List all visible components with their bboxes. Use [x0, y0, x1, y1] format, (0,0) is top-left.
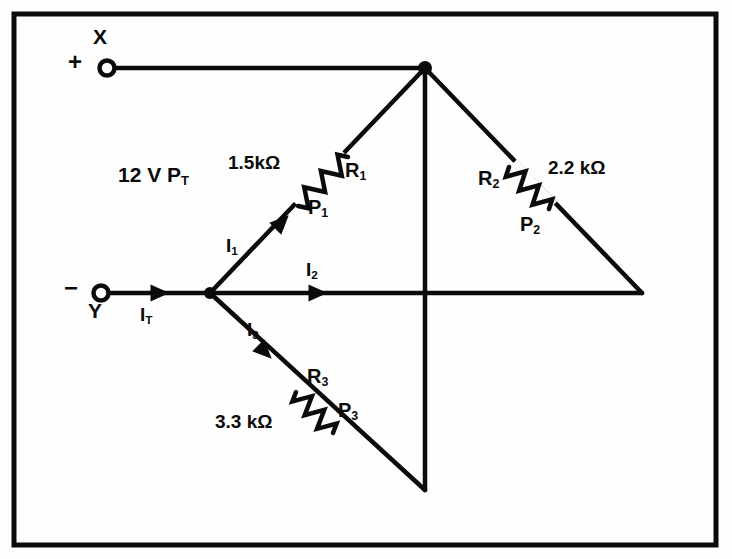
resistor-r2-reference-text: R — [478, 167, 492, 189]
circuit-diagram-figure: + X − Y 12 V PT IT 1.5kΩ R1 P1 I1 I2 R2 … — [0, 0, 732, 559]
current-i1-label: I1 — [226, 236, 238, 255]
terminal-x-label: X — [93, 26, 107, 47]
current-arrow-branch-2-head — [309, 285, 328, 302]
power-p1-reference-subscript: 1 — [321, 206, 328, 220]
current-i2-label: I2 — [306, 260, 318, 279]
current-total-label: IT — [140, 305, 152, 324]
power-p1-reference: P1 — [308, 197, 328, 217]
wire-branch3 — [210, 293, 425, 490]
terminal-y-polarity: − — [64, 276, 78, 300]
current-i3-label: I3 — [247, 320, 259, 339]
resistor-r3-value: 3.3 kΩ — [215, 412, 273, 431]
current-arrow-branch-1 — [269, 209, 294, 234]
junction-top-junction — [418, 61, 432, 75]
power-p2-reference-text: P — [520, 213, 533, 235]
resistor-r3-reference: R3 — [307, 366, 328, 386]
resistor-r1-reference-subscript: 1 — [359, 169, 366, 183]
resistor-r2-reference: R2 — [478, 168, 499, 188]
current-arrow-total — [151, 285, 170, 302]
resistor-r1-reference: R1 — [345, 160, 366, 180]
terminal-x-ring — [100, 61, 115, 76]
junction-left-junction — [204, 287, 216, 299]
resistor-r3-reference-subscript: 3 — [321, 375, 328, 389]
current-total-subscript: T — [145, 313, 152, 326]
resistor-r3-reference-text: R — [307, 365, 321, 387]
power-p3-reference-text: P — [338, 399, 351, 421]
source-voltage-text: 12 V P — [118, 163, 181, 186]
terminal-group — [94, 61, 115, 301]
resistor-r1-value: 1.5kΩ — [228, 153, 280, 172]
source-voltage-subscript: T — [181, 173, 189, 188]
current-arrow-branch-2 — [309, 285, 328, 302]
power-p1-reference-text: P — [308, 196, 321, 218]
source-voltage-label: 12 V PT — [118, 164, 189, 185]
circuit-schematic — [0, 0, 732, 559]
diagram-border-rect — [14, 14, 716, 545]
power-p3-reference: P3 — [338, 400, 358, 420]
diagram-border — [14, 14, 716, 545]
terminal-y-label: Y — [88, 300, 102, 321]
power-p3-reference-subscript: 3 — [351, 409, 358, 423]
wire-group — [110, 68, 642, 490]
current-arrow-total-head — [151, 285, 170, 302]
resistor-r1-reference-text: R — [345, 159, 359, 181]
terminal-x-polarity: + — [68, 50, 82, 74]
current-i1-subscript: 1 — [231, 244, 238, 257]
current-arrow-group — [151, 209, 328, 364]
resistor-r2-reference-subscript: 2 — [492, 177, 499, 191]
current-i2-subscript: 2 — [311, 268, 318, 281]
power-p2-reference: P2 — [520, 214, 540, 234]
resistor-r2-value: 2.2 kΩ — [548, 158, 606, 177]
current-i3-subscript: 3 — [252, 328, 259, 341]
power-p2-reference-subscript: 2 — [533, 223, 540, 237]
current-arrow-branch-1-head — [269, 209, 294, 234]
